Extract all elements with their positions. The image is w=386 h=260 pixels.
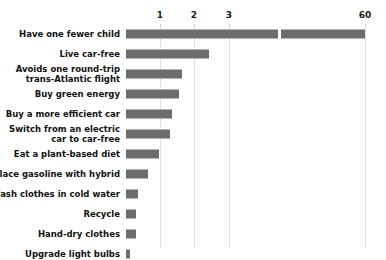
bar-wrapper	[126, 130, 170, 139]
bar-wrapper	[126, 250, 130, 259]
bar-have-one-fewer-child	[126, 30, 365, 39]
bar-wrapper	[126, 50, 209, 59]
x-tick-label-2: 2	[191, 10, 197, 20]
bar-replace-gasoline-with-hybrid	[126, 170, 148, 179]
bar-buy-more-efficient-car	[126, 110, 172, 119]
bar-row: Hand-dry clothes	[126, 224, 371, 244]
bar-wrapper	[126, 230, 136, 239]
x-tick-label-60: 60	[359, 10, 372, 20]
category-label: Buy a more efficient car	[0, 109, 120, 119]
category-label: Live car-free	[0, 49, 120, 59]
category-label: Buy green energy	[0, 89, 120, 99]
bar-buy-green-energy	[126, 90, 179, 99]
category-label: Switch from an electric car to car-free	[0, 124, 120, 144]
category-label: Wash clothes in cold water	[0, 189, 120, 199]
bar-wrapper	[126, 110, 172, 119]
bar-wrapper	[126, 70, 182, 79]
category-label: Hand-dry clothes	[0, 229, 120, 239]
category-label: Avoids one round-trip trans-Atlantic fli…	[0, 64, 120, 84]
category-label: Upgrade light bulbs	[0, 249, 120, 259]
bar-row: Wash clothes in cold water	[126, 184, 371, 204]
bar-row: Switch from an electric car to car-free	[126, 124, 371, 144]
plot-area: Have one fewer child Live car-free Avoid…	[126, 24, 371, 248]
bar-wrapper	[126, 90, 179, 99]
bar-row: Avoids one round-trip trans-Atlantic fli…	[126, 64, 371, 84]
category-label: Recycle	[0, 209, 120, 219]
bar-row: Recycle	[126, 204, 371, 224]
bar-wrapper	[126, 30, 365, 39]
bar-row: Have one fewer child	[126, 24, 371, 44]
bar-row: Buy a more efficient car	[126, 104, 371, 124]
bar-wrapper	[126, 210, 136, 219]
bar-chart: 1 2 3 60 Have one fewer child Live car-f…	[0, 0, 386, 260]
bar-avoids-transatlantic-flight	[126, 70, 182, 79]
bar-wash-clothes-in-cold-water	[126, 190, 138, 199]
bar-upgrade-light-bulbs	[126, 250, 130, 259]
category-label: Eat a plant-based diet	[0, 149, 120, 159]
bar-switch-electric-car-to-car-free	[126, 130, 170, 139]
bar-row: Replace gasoline with hybrid	[126, 164, 371, 184]
bar-row: Upgrade light bulbs	[126, 244, 371, 260]
x-tick-label-1: 1	[157, 10, 163, 20]
category-label: Have one fewer child	[0, 29, 120, 39]
bar-recycle	[126, 210, 136, 219]
bar-row: Buy green energy	[126, 84, 371, 104]
bar-row: Live car-free	[126, 44, 371, 64]
bar-wrapper	[126, 170, 148, 179]
bar-live-car-free	[126, 50, 209, 59]
bar-eat-plant-based-diet	[126, 150, 159, 159]
x-tick-label-3: 3	[226, 10, 232, 20]
axis-break-gap	[278, 29, 281, 40]
bar-wrapper	[126, 190, 138, 199]
bar-wrapper	[126, 150, 159, 159]
category-label: Replace gasoline with hybrid	[0, 169, 120, 179]
bar-row: Eat a plant-based diet	[126, 144, 371, 164]
bar-hand-dry-clothes	[126, 230, 136, 239]
